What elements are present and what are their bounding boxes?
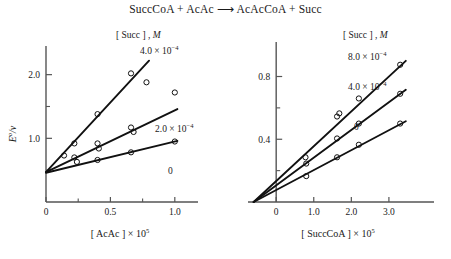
reaction-equation-title: SuccCoA + AcAc ⟶ AcAcCoA + Succ <box>0 2 451 16</box>
y-axis-title-group: Eo/v <box>6 125 18 143</box>
x-tick-label: 3.0 <box>383 207 395 217</box>
series-fit-line <box>46 109 177 172</box>
data-point <box>303 155 308 160</box>
kinetics-figure: SuccCoA + AcAc ⟶ AcAcCoA + Succ 00.51.01… <box>0 0 451 259</box>
data-point <box>172 90 177 95</box>
data-point <box>356 96 361 101</box>
legend-label-1: 4.0 × 10−4 <box>348 80 387 92</box>
y-tick-label: 2.0 <box>28 70 40 80</box>
x-tick-label: 0 <box>44 207 49 217</box>
data-point <box>144 80 149 85</box>
x-axis-title: [ AcAc ] × 105 <box>91 227 149 239</box>
legend-label-2: 0 <box>168 166 173 176</box>
x-axis-title-exponent: 5 <box>371 227 374 234</box>
legend-label-0: 8.0 × 10−4 <box>348 50 387 62</box>
y-tick-label: 0.8 <box>258 72 270 82</box>
x-tick-label: 1.0 <box>169 207 181 217</box>
left-plot-panel: 00.51.01.02.0[ Succ ] , M4.0 × 10−42.0 ×… <box>0 22 225 259</box>
x-axis-title: [ SuccCoA ] × 105 <box>301 227 374 239</box>
legend-label-2: 0 <box>354 122 359 132</box>
series-0 <box>46 61 149 172</box>
data-point <box>95 141 100 146</box>
y-axis-title: Eo/v <box>6 125 18 143</box>
x-tick-label: 1.0 <box>308 207 320 217</box>
legend-title-unit: M <box>379 30 389 40</box>
legend: [ Succ ] , M4.0 × 10−42.0 × 10−40 <box>116 30 194 176</box>
data-point <box>128 71 133 76</box>
right-plot-svg: 01.02.03.00.40.8[ Succ ] , M8.0 × 10−44.… <box>226 22 451 259</box>
y-axis-title-denominator: /v <box>7 125 18 134</box>
legend-title: [ Succ ] , M <box>116 30 162 40</box>
x-tick-label: 0.5 <box>104 207 116 217</box>
legend-label-1: 2.0 × 10−4 <box>155 122 194 134</box>
legend-exponent: −4 <box>379 80 387 87</box>
x-tick-label: 0 <box>274 207 279 217</box>
y-tick-label: 0.4 <box>258 135 270 145</box>
x-axis-title-exponent: 5 <box>146 227 149 234</box>
legend-exponent: −4 <box>186 122 194 129</box>
legend-exponent: −4 <box>379 50 387 57</box>
legend-title-unit: M <box>152 30 162 40</box>
y-tick-label: 1.0 <box>28 134 40 144</box>
legend-label-0: 4.0 × 10−4 <box>140 44 179 56</box>
legend: [ Succ ] , M8.0 × 10−44.0 × 10−40 <box>343 30 389 132</box>
data-point <box>74 159 79 164</box>
left-plot-svg: 00.51.01.02.0[ Succ ] , M4.0 × 10−42.0 ×… <box>0 22 225 259</box>
right-plot-panel: 01.02.03.00.40.8[ Succ ] , M8.0 × 10−44.… <box>226 22 451 259</box>
legend-exponent: −4 <box>171 44 179 51</box>
series-2 <box>46 139 177 173</box>
x-tick-label: 2.0 <box>345 207 357 217</box>
legend-title: [ Succ ] , M <box>343 30 389 40</box>
